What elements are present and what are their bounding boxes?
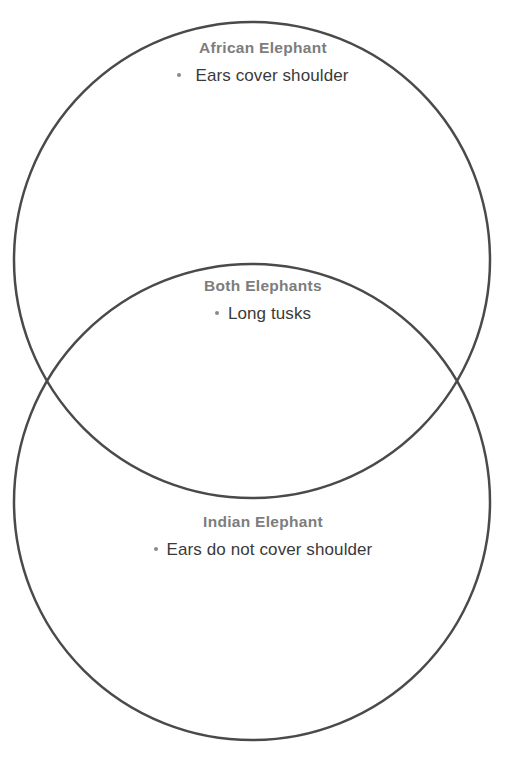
circle-indian-elephant (14, 264, 490, 740)
venn-circles-svg (0, 0, 526, 757)
venn-diagram-page: African Elephant Ears cover shoulder Bot… (0, 0, 526, 757)
circle-african-elephant (14, 22, 490, 498)
